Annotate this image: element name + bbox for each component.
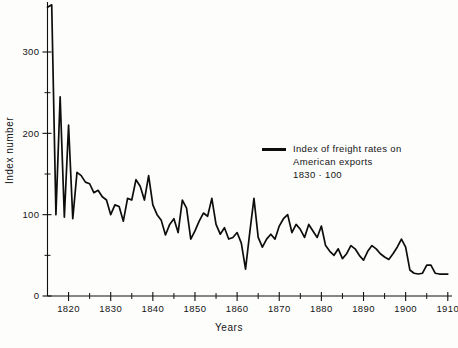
x-tick-label: 1860 [226,303,249,314]
x-tick-label: 1870 [268,303,291,314]
x-tick-label: 1850 [184,303,207,314]
x-ticks-group: 1820183018401850186018701880189019001910 [57,292,458,314]
x-tick-label: 1890 [352,303,375,314]
y-tick-label: 100 [22,209,39,220]
x-tick-label: 1840 [141,303,164,314]
x-tick-label: 1910 [436,303,458,314]
y-tick-label: 0 [34,290,40,301]
freight-rate-series-line [48,5,448,274]
legend-line-2: American exports [293,155,402,168]
x-tick-label: 1830 [99,303,122,314]
series-group [48,5,448,274]
legend-line-swatch [262,148,286,151]
y-axis-title-wrap: Index number [2,0,18,300]
x-tick-label: 1820 [57,303,80,314]
chart-figure: 0100200300 18201830184018501860187018801… [0,0,458,348]
legend-line-1: Index of freight rates on [293,142,402,155]
y-tick-label: 200 [22,128,39,139]
chart-legend: Index of freight rates on American expor… [262,142,402,182]
y-axis-title: Index number [5,116,16,183]
y-tick-label: 300 [22,46,39,57]
legend-line-3: 1830 · 100 [293,168,402,181]
x-axis-title: Years [0,322,458,333]
x-tick-label: 1900 [394,303,417,314]
legend-text-block: Index of freight rates on American expor… [293,142,402,182]
x-tick-label: 1880 [310,303,333,314]
